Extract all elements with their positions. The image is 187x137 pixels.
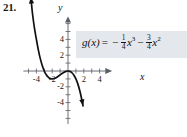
y-axis-arrowhead	[65, 16, 71, 22]
y-tick-label: -4	[44, 97, 64, 107]
figure-problem-21: 21. g(x)=−14x3−34x2 y x -4-22442-2-4	[0, 0, 187, 137]
x-tick-label: 4	[90, 74, 110, 84]
y-axis-label: y	[58, 2, 62, 13]
y-tick-label: 4	[44, 34, 64, 44]
y-tick-label: -2	[44, 81, 64, 91]
cubic-function-plot	[0, 0, 187, 137]
curve-start-arrowhead	[29, 0, 34, 4]
y-tick-label: 2	[44, 50, 64, 60]
x-axis-label: x	[140, 71, 144, 82]
